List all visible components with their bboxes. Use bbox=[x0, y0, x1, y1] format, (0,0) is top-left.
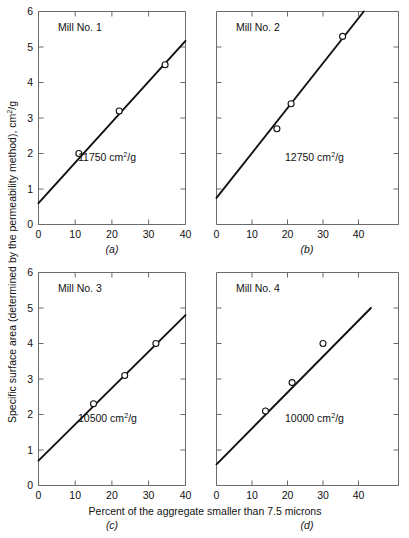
panel-d-annotation-value: 10000 bbox=[285, 412, 314, 424]
x-axis-title: Percent of the aggregate smaller than 7.… bbox=[89, 505, 322, 517]
data-point bbox=[153, 341, 159, 347]
panel-c-y-ticks bbox=[39, 273, 186, 486]
panel-b-annotation: 12750 cm2/g bbox=[285, 150, 344, 163]
panel-c-xtick-30: 30 bbox=[143, 489, 155, 501]
data-point bbox=[340, 33, 346, 39]
panel-d-xtick-20: 20 bbox=[282, 489, 294, 501]
figure-container: Specific surface area (determined by the… bbox=[0, 0, 409, 538]
panel-b-x-ticklabels: 0 10 20 30 40 bbox=[214, 228, 365, 240]
panel-b-y-ticks bbox=[217, 47, 399, 189]
panel-a-axes bbox=[39, 12, 186, 225]
panel-c-ytick-3: 3 bbox=[27, 373, 33, 385]
panel-b-annotation-tail: /g bbox=[335, 151, 344, 163]
panel-a-ytick-2: 2 bbox=[27, 147, 33, 159]
panel-d-annotation-tail: /g bbox=[335, 412, 344, 424]
panel-c-y-ticklabels: 0 1 2 3 4 5 6 bbox=[27, 266, 33, 491]
panel-c-x-ticklabels: 0 10 20 30 40 bbox=[36, 489, 192, 501]
data-point bbox=[122, 373, 128, 379]
data-point bbox=[320, 341, 326, 347]
panel-c-xtick-40: 40 bbox=[180, 489, 192, 501]
four-panel-scatter-figure: Specific surface area (determined by the… bbox=[0, 0, 409, 538]
panel-a-annotation-tail: /g bbox=[127, 151, 136, 163]
panel-c-annotation: 10500 cm2/g bbox=[78, 411, 137, 424]
panel-d-annotation: 10000 cm2/g bbox=[285, 411, 344, 424]
panel-d-x-ticklabels: 0 10 20 30 40 bbox=[214, 489, 365, 501]
panel-a-xtick-0: 0 bbox=[36, 228, 42, 240]
data-point bbox=[91, 401, 97, 407]
panel-b-frame-top-right bbox=[217, 12, 399, 225]
panel-b-xtick-0: 0 bbox=[214, 228, 220, 240]
svg-text:Specific surface area (determi: Specific surface area (determined by the… bbox=[5, 101, 18, 423]
panel-c: 0 1 2 3 4 5 6 0 10 20 30 40 bbox=[27, 266, 191, 531]
panel-b: 0 10 20 30 40 Mill No. 2 12750 cm2/g (b) bbox=[214, 12, 399, 256]
panel-d-fit-line bbox=[217, 308, 371, 464]
panel-c-annotation-value: 10500 bbox=[78, 412, 107, 424]
panel-c-ytick-5: 5 bbox=[27, 302, 33, 314]
panel-a-ytick-1: 1 bbox=[27, 183, 33, 195]
panel-c-mill-label: Mill No. 3 bbox=[58, 282, 102, 294]
panel-c-ytick-2: 2 bbox=[27, 408, 33, 420]
panel-d-axes bbox=[217, 273, 399, 486]
panel-d-data-points bbox=[263, 341, 327, 415]
panel-a-annotation-unit: cm bbox=[106, 151, 123, 163]
panel-a-ytick-6: 6 bbox=[27, 5, 33, 17]
panel-c-ytick-6: 6 bbox=[27, 266, 33, 278]
data-point bbox=[162, 62, 168, 68]
panel-a-x-ticks bbox=[39, 12, 186, 225]
panel-b-xtick-20: 20 bbox=[282, 228, 294, 240]
panel-c-annotation-unit: cm bbox=[107, 412, 124, 424]
panel-b-xtick-10: 10 bbox=[246, 228, 258, 240]
panel-d-x-ticks bbox=[217, 273, 359, 486]
panel-c-annotation-tail: /g bbox=[128, 412, 137, 424]
data-point bbox=[274, 126, 280, 132]
panel-c-xtick-10: 10 bbox=[69, 489, 81, 501]
panel-b-annotation-unit: cm bbox=[314, 151, 331, 163]
panel-c-xtick-0: 0 bbox=[36, 489, 42, 501]
panel-d-xtick-30: 30 bbox=[317, 489, 329, 501]
panel-d-xtick-0: 0 bbox=[214, 489, 220, 501]
panel-d: 0 10 20 30 40 Mill No. 4 10000 cm2/g (d) bbox=[214, 273, 399, 532]
panel-d-y-ticks bbox=[217, 308, 399, 450]
panel-d-xtick-10: 10 bbox=[246, 489, 258, 501]
panel-a-ytick-0: 0 bbox=[27, 218, 33, 230]
panel-a-xtick-20: 20 bbox=[106, 228, 118, 240]
y-axis-title: Specific surface area (determined by the… bbox=[5, 101, 18, 423]
panel-d-annotation-unit: cm bbox=[314, 412, 331, 424]
panel-a-mill-label: Mill No. 1 bbox=[58, 21, 102, 33]
data-point bbox=[263, 408, 269, 414]
panel-c-axes bbox=[39, 273, 186, 486]
panel-d-letter: (d) bbox=[301, 519, 314, 531]
panel-a-y-ticks bbox=[39, 12, 186, 225]
panel-a-frame-top-right bbox=[39, 12, 186, 225]
panel-a-xtick-30: 30 bbox=[143, 228, 155, 240]
panel-c-x-ticks bbox=[39, 273, 186, 486]
panel-c-ytick-1: 1 bbox=[27, 444, 33, 456]
panel-b-annotation-value: 12750 bbox=[285, 151, 314, 163]
panel-a-annotation-value: 11750 bbox=[78, 151, 107, 163]
panel-b-xtick-30: 30 bbox=[317, 228, 329, 240]
panel-d-xtick-40: 40 bbox=[353, 489, 365, 501]
panel-c-ytick-0: 0 bbox=[27, 479, 33, 491]
panel-b-letter: (b) bbox=[301, 243, 314, 255]
panel-a-xtick-40: 40 bbox=[180, 228, 192, 240]
panel-b-x-ticks bbox=[217, 12, 359, 225]
panel-a-letter: (a) bbox=[106, 243, 119, 255]
panel-d-mill-label: Mill No. 4 bbox=[236, 282, 280, 294]
panel-b-xtick-40: 40 bbox=[353, 228, 365, 240]
panel-c-xtick-20: 20 bbox=[106, 489, 118, 501]
panel-d-frame-top-right bbox=[217, 273, 399, 486]
panel-a-y-ticklabels: 0 1 2 3 4 5 6 bbox=[27, 5, 33, 230]
panel-a-ytick-5: 5 bbox=[27, 41, 33, 53]
panel-c-fit-line bbox=[39, 315, 186, 461]
panel-b-axes bbox=[217, 12, 399, 225]
panel-a-annotation: 11750 cm2/g bbox=[78, 150, 136, 163]
x-axis-title-text: Percent of the aggregate smaller than 7.… bbox=[89, 505, 322, 517]
y-axis-title-part1: Specific surface area (determined by the… bbox=[6, 113, 18, 423]
panel-b-mill-label: Mill No. 2 bbox=[236, 21, 280, 33]
data-point bbox=[289, 380, 295, 386]
panel-c-frame-top-right bbox=[39, 273, 186, 486]
panel-a-x-ticklabels: 0 10 20 30 40 bbox=[36, 228, 192, 240]
data-point bbox=[288, 101, 294, 107]
panel-a-xtick-10: 10 bbox=[69, 228, 81, 240]
y-axis-title-part2: /g bbox=[6, 101, 18, 110]
